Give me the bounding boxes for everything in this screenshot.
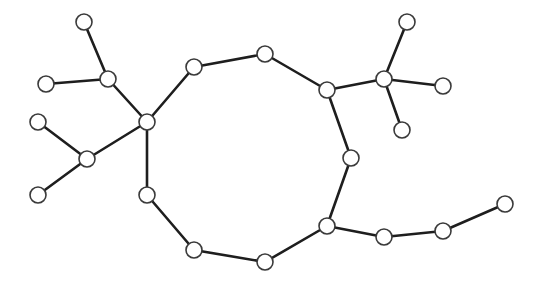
node-n5 [30, 114, 46, 130]
edge-n10-n15 [327, 90, 351, 158]
edge-n11-n12 [384, 22, 407, 79]
edge-n3-n2 [46, 79, 108, 84]
node-layer [30, 14, 513, 270]
edge-n4-n8 [147, 67, 194, 122]
edge-n9-n10 [265, 54, 327, 90]
node-n9 [257, 46, 273, 62]
node-n17 [139, 187, 155, 203]
edge-n1-n2 [84, 22, 108, 79]
edge-n6-n7 [38, 159, 87, 195]
edge-n20-n21 [384, 231, 443, 237]
node-n3 [38, 76, 54, 92]
edge-n8-n9 [194, 54, 265, 67]
node-n1 [76, 14, 92, 30]
edge-n17-n18 [147, 195, 194, 250]
node-n19 [257, 254, 273, 270]
node-n7 [30, 187, 46, 203]
node-n2 [100, 71, 116, 87]
node-n11 [376, 71, 392, 87]
node-n21 [435, 223, 451, 239]
node-n10 [319, 82, 335, 98]
node-n6 [79, 151, 95, 167]
node-n16 [319, 218, 335, 234]
node-n20 [376, 229, 392, 245]
edge-n5-n6 [38, 122, 87, 159]
node-n8 [186, 59, 202, 75]
node-n13 [435, 78, 451, 94]
edge-n19-n16 [265, 226, 327, 262]
edge-n18-n19 [194, 250, 265, 262]
edge-n11-n13 [384, 79, 443, 86]
node-n14 [394, 122, 410, 138]
node-n12 [399, 14, 415, 30]
edge-n15-n16 [327, 158, 351, 226]
edge-n6-n4 [87, 122, 147, 159]
edge-n21-n22 [443, 204, 505, 231]
node-n22 [497, 196, 513, 212]
node-n4 [139, 114, 155, 130]
node-n15 [343, 150, 359, 166]
node-n18 [186, 242, 202, 258]
graph-diagram [0, 0, 540, 288]
